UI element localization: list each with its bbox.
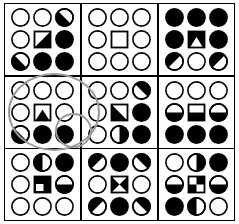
circle-empty-icon: [87, 29, 108, 50]
square-bowtie-horizontal-icon: [109, 174, 130, 195]
cell-3-3[interactable]: [159, 149, 234, 220]
cell-2-1-mini-grid: [10, 80, 75, 145]
circle-empty-icon: [10, 7, 31, 28]
circle-full-icon: [54, 124, 75, 145]
cell-1-1-mini-grid: [10, 7, 75, 72]
circle-half-left-icon: [186, 196, 207, 217]
circle-empty-icon: [87, 7, 108, 28]
cell-1-3-mini-grid: [164, 7, 229, 72]
circle-diag-upper-right-icon: [131, 152, 152, 173]
circle-diag-lower-left-icon: [10, 124, 31, 145]
circle-diag-lower-left-icon: [54, 7, 75, 28]
square-black-with-white-corner-lower-left-icon: [32, 174, 53, 195]
circle-empty-icon: [32, 7, 53, 28]
circle-half-bottom-icon: [208, 174, 229, 195]
circle-full-icon: [208, 152, 229, 173]
circle-empty-icon: [10, 152, 31, 173]
circle-full-icon: [186, 7, 207, 28]
cell-3-1[interactable]: [5, 149, 80, 220]
circle-empty-icon: [32, 80, 53, 101]
circle-empty-icon: [54, 196, 75, 217]
circle-full-icon: [131, 102, 152, 123]
circle-full-icon: [131, 124, 152, 145]
circle-full-icon: [164, 29, 185, 50]
circle-diag-upper-right-icon: [131, 80, 152, 101]
cell-2-2[interactable]: [82, 77, 157, 148]
circle-empty-icon: [54, 102, 75, 123]
circle-half-left-icon: [32, 152, 53, 173]
circle-empty-icon: [87, 102, 108, 123]
cell-2-2-mini-grid: [87, 80, 152, 145]
matrix-puzzle-figure: [0, 0, 239, 224]
square-diag-lower-right-icon: [32, 29, 53, 50]
circle-full-icon: [164, 7, 185, 28]
circle-half-bottom-icon: [164, 102, 185, 123]
circle-full-icon: [54, 152, 75, 173]
circle-empty-icon: [10, 29, 31, 50]
circle-full-icon: [54, 51, 75, 72]
cell-1-2-mini-grid: [87, 7, 152, 72]
circle-empty-icon: [87, 174, 108, 195]
circle-empty-icon: [208, 196, 229, 217]
square-checkerboard-icon: [186, 174, 207, 195]
square-empty-icon: [109, 29, 130, 50]
circle-empty-icon: [208, 80, 229, 101]
circle-diag-lower-left-icon: [10, 51, 31, 72]
circle-empty-icon: [87, 124, 108, 145]
circle-empty-icon: [164, 80, 185, 101]
cell-3-3-mini-grid: [164, 152, 229, 217]
circle-full-icon: [186, 124, 207, 145]
cell-1-3[interactable]: [159, 4, 234, 75]
square-half-bottom-icon: [186, 102, 207, 123]
circle-full-icon: [208, 29, 229, 50]
circle-full-icon: [109, 196, 130, 217]
circle-empty-icon: [87, 51, 108, 72]
circle-empty-icon: [109, 7, 130, 28]
square-triangle-up-black-on-white-icon: [32, 102, 53, 123]
square-triangle-up-white-on-black-icon: [186, 29, 207, 50]
circle-full-icon: [208, 7, 229, 28]
circle-empty-icon: [131, 7, 152, 28]
circle-half-right-icon: [109, 124, 130, 145]
circle-full-icon: [164, 196, 185, 217]
square-triangle-lower-left-black-icon: [109, 102, 130, 123]
matrix-grid: [4, 3, 235, 221]
circle-empty-icon: [54, 80, 75, 101]
circle-empty-icon: [186, 51, 207, 72]
cell-2-3-mini-grid: [164, 80, 229, 145]
circle-full-icon: [32, 51, 53, 72]
circle-full-icon: [54, 29, 75, 50]
circle-empty-icon: [186, 80, 207, 101]
circle-half-right-icon: [186, 152, 207, 173]
cell-1-1[interactable]: [5, 4, 80, 75]
circle-empty-icon: [164, 152, 185, 173]
circle-empty-icon: [131, 29, 152, 50]
circle-diag-upper-left-icon: [164, 51, 185, 72]
cell-2-3[interactable]: [159, 77, 234, 148]
cell-3-2-mini-grid: [87, 152, 152, 217]
circle-full-icon: [208, 124, 229, 145]
cell-3-2[interactable]: [82, 149, 157, 220]
circle-half-bottom-icon: [164, 174, 185, 195]
circle-empty-icon: [109, 80, 130, 101]
circle-diag-upper-right-icon: [131, 196, 152, 217]
circle-empty-icon: [10, 102, 31, 123]
circle-diag-upper-left-icon: [208, 51, 229, 72]
circle-full-icon: [32, 124, 53, 145]
circle-empty-icon: [32, 196, 53, 217]
circle-diag-upper-left-icon: [87, 196, 108, 217]
circle-empty-icon: [10, 80, 31, 101]
circle-empty-icon: [87, 80, 108, 101]
cell-1-2[interactable]: [82, 4, 157, 75]
circle-empty-icon: [131, 174, 152, 195]
cell-3-1-mini-grid: [10, 152, 75, 217]
circle-full-icon: [109, 152, 130, 173]
cell-2-1[interactable]: [5, 77, 80, 148]
circle-diag-upper-left-icon: [87, 152, 108, 173]
circle-empty-icon: [10, 174, 31, 195]
circle-empty-icon: [109, 51, 130, 72]
circle-empty-icon: [131, 51, 152, 72]
circle-full-icon: [164, 124, 185, 145]
circle-half-bottom-icon: [208, 102, 229, 123]
circle-half-bottom-icon: [54, 174, 75, 195]
